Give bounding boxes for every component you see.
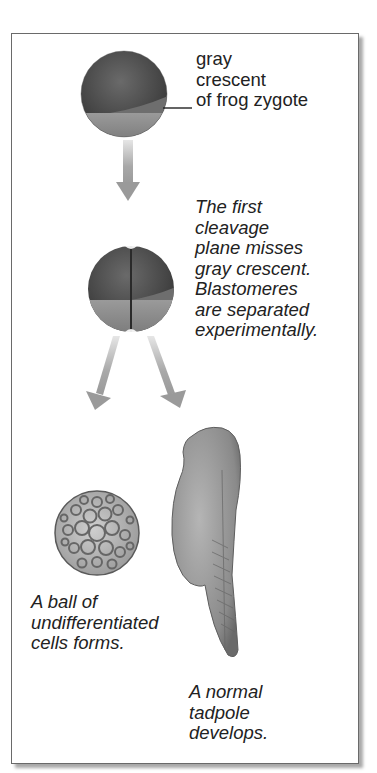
diagram-artwork: [0, 0, 377, 773]
ball-of-cells: [55, 491, 139, 575]
tadpole: [172, 427, 241, 656]
two-cell-embryo: [86, 244, 176, 336]
zygote: [80, 50, 170, 143]
arrow-left-down-icon: [86, 336, 120, 410]
label-ball-of-cells: A ball of undifferentiated cells forms.: [31, 592, 159, 654]
label-zygote: gray crescent of frog zygote: [196, 49, 308, 111]
label-first-cleavage: The first cleavage plane misses gray cre…: [195, 197, 318, 341]
arrow-down-icon: [116, 140, 140, 201]
arrow-right-down-icon: [147, 336, 186, 408]
label-normal-tadpole: A normal tadpole develops.: [189, 682, 268, 744]
